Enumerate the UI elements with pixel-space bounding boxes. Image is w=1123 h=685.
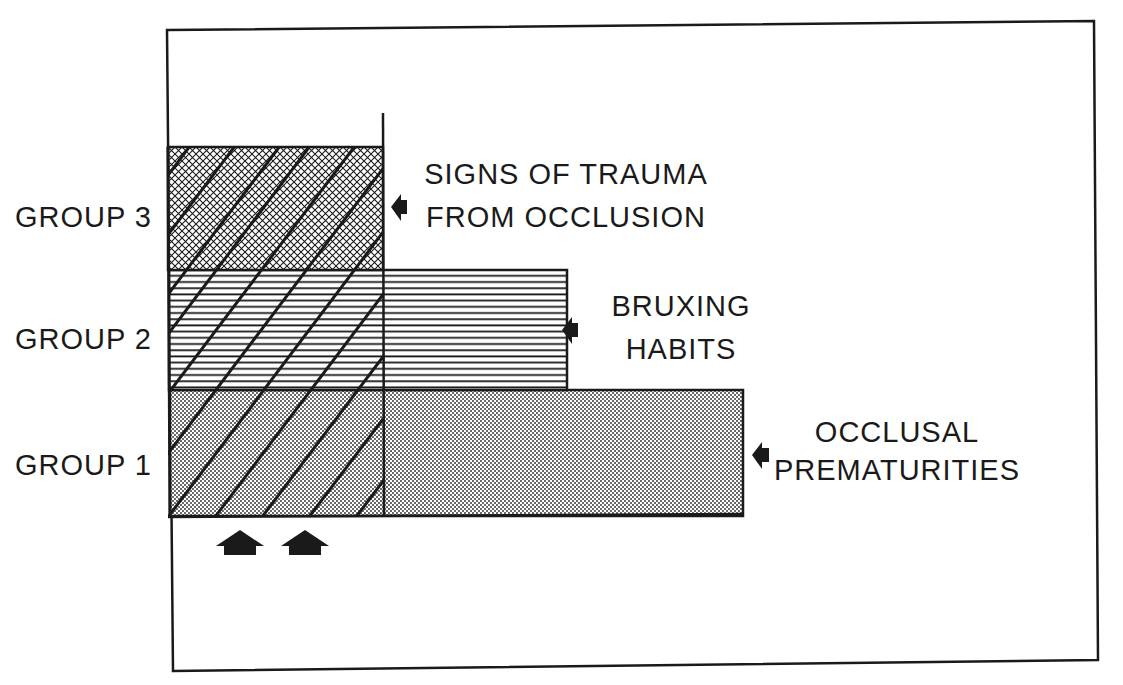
- prematurities-label-line-2: PREMATURITIES: [774, 454, 1020, 486]
- group-1-label: GROUP 1: [15, 449, 152, 481]
- trauma-from-occlusion-diagram: GROUP 3 GROUP 2 GROUP 1 SIGNS OF TRAUMA …: [0, 0, 1123, 685]
- left-arrow-icon: [391, 194, 407, 221]
- left-arrow-icon: [752, 442, 769, 469]
- bruxing-label-line-1: BRUXING: [611, 290, 750, 322]
- vertical-divider: [383, 113, 384, 517]
- up-arrow-icon: [281, 530, 329, 555]
- group-2-label: GROUP 2: [15, 323, 152, 355]
- trauma-label-line-1: SIGNS OF TRAUMA: [424, 158, 708, 190]
- bar-group-1-prematurities: [170, 390, 743, 516]
- up-arrow-icon: [216, 530, 264, 555]
- trauma-label-line-2: FROM OCCLUSION: [426, 201, 706, 233]
- left-block-edge: [168, 147, 170, 517]
- bruxing-label-line-2: HABITS: [626, 333, 737, 365]
- group-3-label: GROUP 3: [15, 201, 152, 233]
- prematurities-label-line-1: OCCLUSAL: [815, 416, 979, 448]
